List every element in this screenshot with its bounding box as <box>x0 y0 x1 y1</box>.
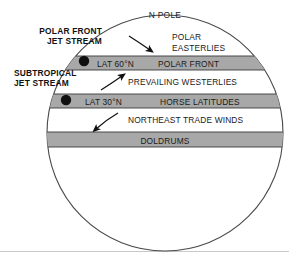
lat-30n-label: LAT 30°N <box>85 97 122 107</box>
north-pole-label: N POLE <box>149 10 182 20</box>
polar-front-jet-stream-label-line2: JET STREAM <box>47 36 102 46</box>
subtropical-jet-stream-label-line1: SUBTROPICAL <box>14 68 77 78</box>
polar-front-jet-stream-marker-icon <box>79 56 89 66</box>
northeast-trade-winds-label: NORTHEAST TRADE WINDS <box>128 115 244 125</box>
wind-belts-diagram: N POLE LAT 60°N POLAR FRONT LAT 30°N HOR… <box>0 0 290 264</box>
polar-front-label: POLAR FRONT <box>158 59 219 69</box>
polar-easterlies-label-line2: EASTERLIES <box>172 43 225 53</box>
band-horse-latitudes <box>0 94 290 108</box>
doldrums-label: DOLDRUMS <box>140 136 189 146</box>
lat-60n-label: LAT 60°N <box>97 59 134 69</box>
polar-easterlies-label-line1: POLAR <box>172 32 201 42</box>
polar-front-jet-stream-label-line1: POLAR FRONT <box>39 26 102 36</box>
horse-latitudes-label: HORSE LATITUDES <box>160 97 240 107</box>
subtropical-jet-stream-marker-icon <box>61 95 71 105</box>
globe-wind-belts-illustration: N POLE LAT 60°N POLAR FRONT LAT 30°N HOR… <box>0 0 290 264</box>
subtropical-jet-stream-label-line2: JET STREAM <box>14 78 69 88</box>
prevailing-westerlies-label: PREVAILING WESTERLIES <box>128 77 237 87</box>
